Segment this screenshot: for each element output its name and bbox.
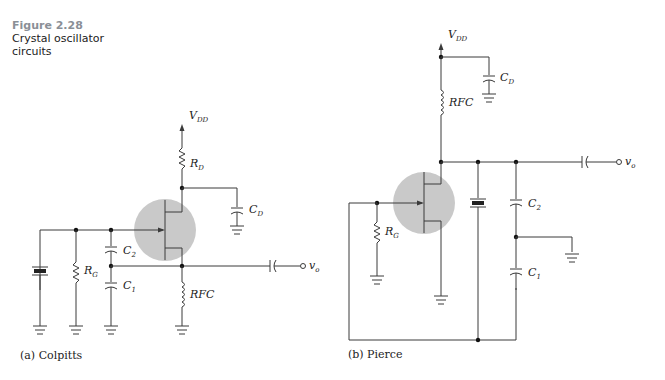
output-terminal — [617, 160, 622, 165]
output-terminal — [301, 264, 306, 269]
vdd-label: VDD — [189, 109, 209, 124]
ground-icon — [104, 326, 118, 334]
resistor-rg — [73, 230, 79, 326]
ground-icon — [565, 254, 579, 262]
capacitor-cd — [483, 76, 495, 94]
resistor-rg — [374, 203, 380, 276]
pierce-caption: (b) Pierce — [348, 348, 402, 361]
schematic-canvas: VDD RD CD — [0, 0, 665, 380]
c1-label: C1 — [528, 266, 541, 281]
c1-label: C1 — [123, 279, 136, 294]
rd-label: RD — [189, 157, 204, 172]
ground-icon — [370, 276, 384, 284]
vo-label: vo — [309, 259, 319, 274]
cd-label: CD — [500, 71, 514, 86]
inductor-rfc — [182, 282, 185, 307]
vdd-supply: VDD — [439, 28, 468, 57]
ground-icon — [175, 326, 189, 334]
pierce-circuit: VDD CD RFC — [348, 28, 635, 361]
colpitts-circuit: VDD RD CD — [20, 109, 319, 362]
ground-icon — [230, 226, 244, 234]
vdd-label: VDD — [448, 28, 468, 43]
ground-icon — [69, 326, 83, 334]
crystal-xtal — [470, 199, 486, 207]
vo-label: vo — [625, 155, 635, 170]
rg-label: RG — [83, 264, 98, 279]
resistor-rd — [179, 148, 185, 188]
vdd-supply: VDD — [180, 109, 209, 148]
colpitts-caption: (a) Colpitts — [20, 349, 83, 362]
rfc-label: RFC — [448, 96, 474, 109]
rfc-label: RFC — [189, 288, 215, 301]
cd-label: CD — [249, 203, 263, 218]
inductor-rfc — [441, 90, 444, 115]
c2-label: C2 — [123, 244, 136, 259]
ground-icon — [33, 326, 47, 334]
capacitor-cd — [231, 208, 243, 226]
rg-label: RG — [384, 225, 399, 240]
ground-icon — [434, 296, 448, 304]
c2-label: C2 — [528, 197, 541, 212]
ground-icon — [482, 94, 496, 102]
